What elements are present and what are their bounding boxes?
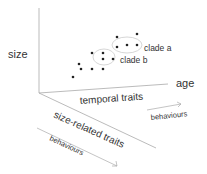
age-label: age <box>176 77 194 89</box>
behaviours-arrow-upper <box>147 102 181 110</box>
size-label: size <box>8 48 28 60</box>
diagram-canvas: size age clade a clade b temporal traits… <box>0 0 207 174</box>
behaviours-upper-label: behaviours <box>150 109 188 122</box>
clade-a-label: clade a <box>144 43 172 53</box>
behaviours-lower-label: behaviours <box>48 134 85 158</box>
temporal-traits-label: temporal traits <box>79 91 143 106</box>
clade-b-ellipse <box>93 49 115 65</box>
clade-b-label: clade b <box>120 55 148 65</box>
age-axis <box>39 84 168 93</box>
trait-space-diagram: size age clade a clade b temporal traits… <box>0 0 207 174</box>
